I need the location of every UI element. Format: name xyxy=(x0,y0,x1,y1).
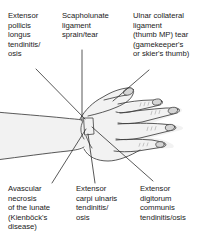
label-extensor-carpi-ulnaris: Extensor carpi ulnaris tendinitis/ osis xyxy=(76,184,138,222)
label-extensor-pollicis-longus: Extensor pollicis longus tendinitis/ osi… xyxy=(8,11,66,59)
label-scapholunate-ligament: Scapholunate ligament sprain/tear xyxy=(62,11,132,40)
leader-extensor-pollicis-longus xyxy=(36,69,85,119)
label-avascular-necrosis-lunate: Avascular necrosis of the lunate (Kienbö… xyxy=(8,184,70,232)
label-extensor-digitorum-communis: Extensor digitorum communis tendinitis/o… xyxy=(140,184,210,222)
hand-pathology-figure: Extensor pollicis longus tendinitis/ osi… xyxy=(0,0,210,248)
label-ulnar-collateral-ligament: Ulnar collateral ligament (thumb MP) tea… xyxy=(133,11,209,59)
